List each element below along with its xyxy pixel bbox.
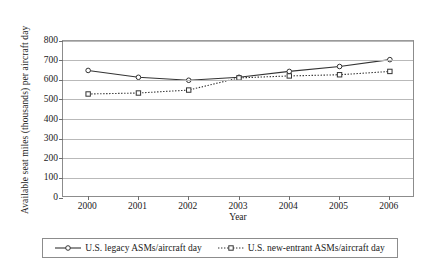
- y-tick-mark: [59, 41, 63, 42]
- data-point-marker: [287, 74, 291, 78]
- data-point-marker: [337, 73, 341, 77]
- gridline: [63, 41, 413, 42]
- y-tick-mark: [59, 198, 63, 199]
- x-tick-label: 2000: [63, 200, 111, 212]
- data-point-marker: [136, 91, 140, 95]
- gridline: [63, 139, 413, 140]
- x-tick-label: 2005: [315, 200, 363, 212]
- x-tick-label: 2004: [264, 200, 312, 212]
- y-tick-label: 0: [24, 192, 58, 202]
- legend-line-square-icon: [218, 243, 244, 253]
- chart-figure: Available seat miles (thousands) per air…: [0, 0, 440, 266]
- x-axis-title: Year: [62, 212, 414, 222]
- legend-label: U.S. legacy ASMs/aircraft day: [85, 243, 201, 253]
- data-point-marker: [388, 69, 392, 73]
- y-tick-mark: [59, 139, 63, 140]
- data-point-marker: [187, 88, 191, 92]
- legend-line-circle-icon: [55, 243, 81, 253]
- legend-label: U.S. new-entrant ASMs/aircraft day: [248, 243, 385, 253]
- data-point-marker: [86, 68, 91, 73]
- x-tick-label: 2002: [164, 200, 212, 212]
- legend-entry: U.S. new-entrant ASMs/aircraft day: [218, 243, 385, 253]
- y-tick-label: 700: [24, 55, 58, 65]
- data-point-marker: [86, 92, 90, 96]
- y-tick-mark: [59, 178, 63, 179]
- y-tick-label: 300: [24, 133, 58, 143]
- y-tick-mark: [59, 60, 63, 61]
- y-tick-label: 100: [24, 172, 58, 182]
- data-point-marker: [287, 69, 292, 74]
- y-tick-label: 600: [24, 74, 58, 84]
- y-tick-mark: [59, 119, 63, 120]
- x-tick-label: 2003: [214, 200, 262, 212]
- gridline: [63, 99, 413, 100]
- gridline: [63, 119, 413, 120]
- y-tick-mark: [59, 158, 63, 159]
- gridline: [63, 158, 413, 159]
- y-tick-label: 200: [24, 153, 58, 163]
- data-point-marker: [337, 64, 342, 69]
- gridline: [63, 178, 413, 179]
- y-axis-tick-labels: 0100200300400500600700800: [24, 40, 58, 197]
- y-tick-label: 800: [24, 35, 58, 45]
- legend-entry: U.S. legacy ASMs/aircraft day: [55, 243, 201, 253]
- gridline: [63, 60, 413, 61]
- y-tick-mark: [59, 99, 63, 100]
- y-tick-label: 500: [24, 94, 58, 104]
- x-tick-label: 2006: [365, 200, 413, 212]
- chart-legend: U.S. legacy ASMs/aircraft dayU.S. new-en…: [42, 238, 398, 258]
- x-tick-label: 2001: [113, 200, 161, 212]
- y-tick-label: 400: [24, 114, 58, 124]
- gridline: [63, 80, 413, 81]
- y-tick-mark: [59, 80, 63, 81]
- plot-area: [62, 40, 414, 197]
